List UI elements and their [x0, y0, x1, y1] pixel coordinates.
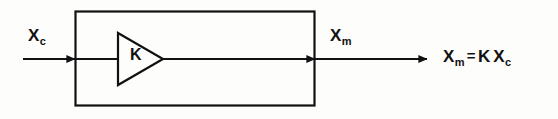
equation-operator: =: [464, 47, 478, 64]
transfer-equation: Xm=KXc: [443, 48, 511, 65]
equation-gain: K: [478, 47, 493, 66]
input-label-subscript: c: [40, 35, 46, 47]
input-signal-label: Xc: [28, 27, 45, 44]
output-signal-label: Xm: [330, 27, 351, 44]
diagram-canvas: Xc K Xm Xm=KXc: [0, 0, 558, 119]
output-label-subscript: m: [342, 35, 352, 47]
input-label-base: X: [28, 26, 39, 45]
equation-rhs-subscript: c: [505, 56, 511, 68]
output-label-base: X: [330, 26, 341, 45]
equation-lhs-base: X: [443, 47, 454, 66]
equation-rhs-base: X: [493, 47, 504, 66]
amplifier-gain-symbol: K: [130, 47, 142, 63]
